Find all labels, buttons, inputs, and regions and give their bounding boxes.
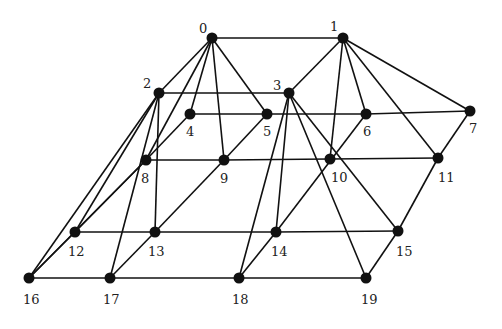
node-18 — [234, 273, 245, 284]
node-0 — [207, 33, 218, 44]
node-5 — [262, 109, 273, 120]
node-label-1: 1 — [330, 19, 338, 34]
node-8 — [141, 155, 152, 166]
node-17 — [105, 273, 116, 284]
node-label-5: 5 — [263, 124, 271, 139]
edge-15-19 — [366, 231, 398, 278]
node-12 — [70, 227, 81, 238]
node-19 — [361, 273, 372, 284]
node-label-10: 10 — [331, 170, 348, 185]
node-label-12: 12 — [68, 244, 85, 259]
edge-5-9 — [224, 114, 267, 160]
node-label-14: 14 — [271, 244, 288, 259]
edges-layer — [29, 38, 470, 278]
edge-6-7 — [366, 111, 470, 114]
node-label-19: 19 — [361, 292, 378, 307]
node-label-17: 17 — [103, 292, 120, 307]
edge-1-11 — [343, 38, 438, 158]
node-label-13: 13 — [148, 244, 165, 259]
node-10 — [325, 154, 336, 165]
node-3 — [284, 88, 295, 99]
edge-10-11 — [330, 158, 438, 159]
edge-9-10 — [224, 159, 330, 160]
edge-0-5 — [212, 38, 267, 114]
node-label-18: 18 — [232, 292, 249, 307]
edge-2-16 — [29, 93, 159, 278]
edge-7-11 — [438, 111, 470, 158]
edge-3-19 — [289, 93, 366, 278]
edge-14-15 — [276, 231, 398, 232]
node-label-2: 2 — [143, 76, 151, 91]
node-label-4: 4 — [186, 124, 194, 139]
graph-diagram: 012345678910111213141516171819 — [0, 0, 502, 329]
node-2 — [154, 88, 165, 99]
node-9 — [219, 155, 230, 166]
edge-2-13 — [155, 93, 159, 232]
node-14 — [271, 227, 282, 238]
node-4 — [185, 109, 196, 120]
node-16 — [24, 273, 35, 284]
node-15 — [393, 226, 404, 237]
node-label-9: 9 — [220, 171, 228, 186]
node-label-3: 3 — [273, 78, 281, 93]
node-label-7: 7 — [469, 121, 477, 136]
node-label-15: 15 — [396, 244, 413, 259]
node-label-11: 11 — [438, 170, 455, 185]
node-label-8: 8 — [141, 171, 149, 186]
edge-9-13 — [155, 160, 224, 232]
node-label-6: 6 — [363, 124, 371, 139]
node-6 — [361, 109, 372, 120]
node-1 — [338, 33, 349, 44]
node-label-16: 16 — [23, 292, 40, 307]
node-11 — [433, 153, 444, 164]
edge-1-3 — [289, 38, 343, 93]
node-label-0: 0 — [199, 21, 207, 36]
edge-11-15 — [398, 158, 438, 231]
node-13 — [150, 227, 161, 238]
node-7 — [465, 106, 476, 117]
edge-0-9 — [212, 38, 224, 160]
edge-1-10 — [330, 38, 343, 159]
